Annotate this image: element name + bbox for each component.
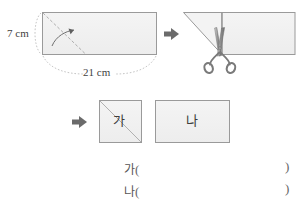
answer-label-ga: 가: [124, 163, 135, 177]
answer-close-paren-ga: ): [285, 160, 289, 173]
answer-row-na: 나(: [124, 183, 139, 199]
right-arrow-1: [164, 28, 179, 40]
answer-label-na: 나: [124, 185, 135, 199]
right-arrow-2: [72, 116, 87, 128]
answer-open-paren-na: (: [135, 184, 139, 199]
answer-row-ga: 가(: [124, 161, 139, 177]
answer-close-paren-na: ): [285, 182, 289, 195]
piece-ga-label: 가: [113, 114, 125, 127]
diagram-canvas: [0, 0, 304, 209]
width-dimension-label: 21 cm: [83, 67, 110, 78]
height-dimension-label: 7 cm: [7, 28, 29, 39]
answer-input-ga[interactable]: [157, 161, 282, 175]
answer-input-na[interactable]: [157, 183, 282, 197]
answer-open-paren-ga: (: [135, 162, 139, 177]
height-measure-bracket: [35, 13, 41, 54]
step2-folded-shape-group: [184, 13, 296, 75]
paper-remainder-rectangle: [222, 13, 295, 55]
width-measure-bracket-left: [43, 56, 84, 74]
width-measure-bracket-right: [116, 56, 156, 74]
paper-rectangle: [43, 13, 157, 55]
step1-rectangle-group: [35, 13, 157, 75]
worksheet-figure: 7 cm 21 cm 가 나 가( ) 나( ): [0, 0, 304, 209]
piece-na-label: 나: [186, 114, 198, 127]
